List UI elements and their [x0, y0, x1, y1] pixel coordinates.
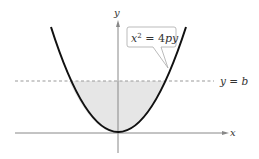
y-equals-b-label: y = b: [219, 75, 248, 87]
parabola-diagram: x2 = 4py y x y = b: [0, 0, 259, 159]
y-axis-label: y: [113, 7, 120, 18]
x-axis-arrow-icon: [222, 131, 229, 135]
y-axis-arrow-icon: [116, 20, 120, 27]
x-axis-label: x: [230, 127, 236, 138]
